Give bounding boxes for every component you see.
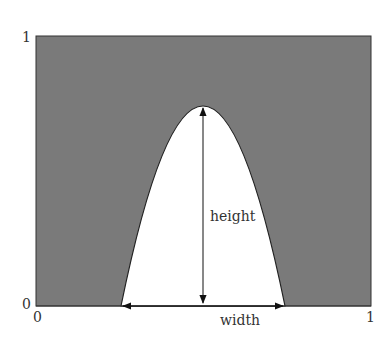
diagram-canvas: 1 0 0 1 height width (0, 0, 391, 341)
height-label: height (210, 208, 256, 224)
y-max-label: 1 (22, 29, 31, 45)
width-label: width (220, 312, 260, 328)
y-min-label: 0 (22, 296, 31, 312)
x-max-label: 1 (366, 309, 375, 325)
x-min-label: 0 (33, 309, 42, 325)
